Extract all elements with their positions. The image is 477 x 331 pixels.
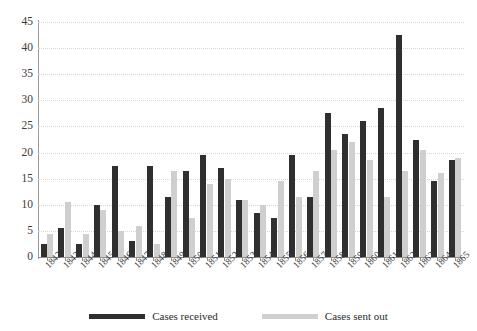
legend-swatch-icon (262, 314, 318, 319)
y-axis-tick-label: 35 (3, 68, 33, 80)
bar-group (413, 22, 426, 257)
legend-item-sent[interactable]: Cases sent out (262, 311, 388, 322)
bar-sent-1845 (100, 210, 106, 257)
x-axis-tick (349, 257, 350, 261)
bar-received-1856 (289, 155, 295, 257)
x-axis-tick (47, 257, 48, 261)
x-axis-tick (384, 257, 385, 261)
bar-group (41, 22, 54, 257)
bar-group (94, 22, 107, 257)
bar-received-1852 (218, 168, 224, 257)
bar-sent-1861 (384, 197, 390, 257)
bar-sent-1857 (313, 171, 319, 257)
x-axis-tick (171, 257, 172, 261)
y-axis-tick-labels: 051015202530354045 (0, 22, 33, 257)
bar-sent-1859 (349, 142, 355, 257)
x-axis-tick (331, 257, 332, 261)
bar-sent-1849 (171, 171, 177, 257)
bar-sent-1862 (402, 171, 408, 257)
x-axis-tick (207, 257, 208, 261)
bar-group (378, 22, 391, 257)
bar-group (431, 22, 444, 257)
y-axis-tick-label: 45 (3, 16, 33, 28)
x-axis-tick (260, 257, 261, 261)
bar-received-1858 (325, 113, 331, 257)
chart-legend: Cases receivedCases sent out (0, 306, 477, 326)
bar-group (449, 22, 462, 257)
bar-sent-1865 (455, 158, 461, 257)
bar-received-1865 (449, 160, 455, 257)
bar-group (58, 22, 71, 257)
bar-received-1859 (342, 134, 348, 257)
x-axis-tick (420, 257, 421, 261)
bar-group (236, 22, 249, 257)
x-axis-tick (402, 257, 403, 261)
x-axis-tick (242, 257, 243, 261)
bar-group (147, 22, 160, 257)
bar-group (342, 22, 355, 257)
x-axis-tick (313, 257, 314, 261)
bar-received-1863 (413, 140, 419, 258)
x-axis-tick (437, 257, 438, 261)
bar-received-1845 (94, 205, 100, 257)
bar-sent-1854 (260, 205, 266, 257)
bar-received-1862 (396, 35, 402, 257)
bar-received-1848 (147, 166, 153, 257)
bar-sent-1863 (420, 150, 426, 257)
bar-sent-1852 (225, 179, 231, 257)
bar-group (200, 22, 213, 257)
bar-group (254, 22, 267, 257)
bar-sent-1860 (367, 160, 373, 257)
bar-received-1854 (254, 213, 260, 257)
bar-group (112, 22, 125, 257)
y-axis-tick-label: 30 (3, 94, 33, 106)
bar-group (396, 22, 409, 257)
bar-received-1861 (378, 108, 384, 257)
bar-received-1849 (165, 197, 171, 257)
x-axis-tick (295, 257, 296, 261)
x-axis-tick (82, 257, 83, 261)
x-axis-tick (118, 257, 119, 261)
y-axis-tick-label: 20 (3, 147, 33, 159)
bar-group (183, 22, 196, 257)
bar-sent-1856 (296, 197, 302, 257)
bar-received-1855 (271, 218, 277, 257)
x-axis-tick (65, 257, 66, 261)
x-axis-tick (224, 257, 225, 261)
bar-group (360, 22, 373, 257)
x-axis-tick (278, 257, 279, 261)
x-axis-tick-labels: 1842184318441845184618471848184918501851… (38, 259, 464, 299)
legend-label: Cases sent out (325, 311, 388, 322)
bar-chart: 051015202530354045 184218431844184518461… (0, 0, 477, 331)
y-axis-tick-label: 40 (3, 42, 33, 54)
bar-sent-1864 (438, 173, 444, 257)
legend-item-received[interactable]: Cases received (89, 311, 218, 322)
bar-group (165, 22, 178, 257)
bar-received-1857 (307, 197, 313, 257)
bar-sent-1858 (331, 150, 337, 257)
bar-received-1850 (183, 171, 189, 257)
bar-group (289, 22, 302, 257)
bar-sent-1853 (242, 200, 248, 257)
y-axis-tick-label: 0 (3, 251, 33, 263)
bar-group (218, 22, 231, 257)
y-axis-tick-label: 10 (3, 199, 33, 211)
plot-area (38, 22, 464, 257)
legend-label: Cases received (152, 311, 218, 322)
bar-group (129, 22, 142, 257)
x-axis-tick (153, 257, 154, 261)
bar-received-1860 (360, 121, 366, 257)
x-axis-tick (455, 257, 456, 261)
bar-group (325, 22, 338, 257)
bar-received-1846 (112, 166, 118, 257)
bar-sent-1851 (207, 184, 213, 257)
bar-sent-1843 (65, 202, 71, 257)
x-axis-tick (366, 257, 367, 261)
bar-received-1864 (431, 181, 437, 257)
bar-group (271, 22, 284, 257)
x-axis-tick (136, 257, 137, 261)
bar-group (76, 22, 89, 257)
bar-received-1851 (200, 155, 206, 257)
x-axis-tick (100, 257, 101, 261)
y-axis-tick-label: 5 (3, 225, 33, 237)
